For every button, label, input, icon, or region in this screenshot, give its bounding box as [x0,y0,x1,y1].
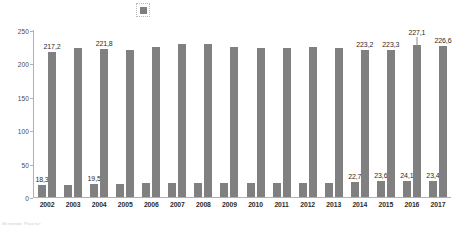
bar-value-label: 22,7 [348,173,361,180]
x-tick-label: 2005 [112,201,138,208]
y-tick-label: 100 [18,128,29,135]
x-tick-label: 2008 [190,201,216,208]
y-tick-mark [30,31,33,32]
bar-value-label: 223,3 [382,41,399,48]
x-tick-label: 2014 [347,201,373,208]
y-tick-mark [30,165,33,166]
bar[interactable] [325,183,333,197]
bar-group [269,30,295,197]
bar-value-label: 223,2 [356,41,373,48]
bar-group [60,30,86,197]
bar-group: 23,4226,6 [425,30,451,197]
y-tick-mark [30,198,33,199]
bar-group [164,30,190,197]
bar[interactable]: 24,1 [403,181,411,197]
x-tick-label: 2009 [216,201,242,208]
bar-group [216,30,242,197]
bar[interactable] [257,48,265,197]
x-tick-label: 2011 [269,201,295,208]
bar[interactable]: 18,3 [38,185,46,197]
bar[interactable] [335,48,343,197]
bar[interactable]: 221,8 [100,49,108,197]
x-tick-label: 2015 [373,201,399,208]
bar-group: 18,3217,2 [34,30,60,197]
bar[interactable] [230,47,238,197]
bar[interactable] [178,44,186,197]
x-axis-labels: 2002200320042005200620072008200920102011… [34,201,451,208]
y-tick-mark [30,131,33,132]
y-tick-label: 0 [25,195,29,202]
y-tick-label: 150 [18,94,29,101]
legend-marker-holder[interactable] [136,3,150,17]
bar[interactable] [283,48,291,197]
x-tick-label: 2004 [86,201,112,208]
bar-group [321,30,347,197]
x-tick-label: 2013 [321,201,347,208]
bar-group: 19,5221,8 [86,30,112,197]
bar-chart: 050100150200250 18,3217,219,5221,822,722… [0,0,456,233]
bar[interactable]: 223,2 [361,50,369,197]
bar-group: 24,1227,1 [399,30,425,197]
bar-group [295,30,321,197]
bar-group [138,30,164,197]
y-tick-label: 200 [18,61,29,68]
bar-value-label: 23,4 [426,172,439,179]
bar[interactable] [309,47,317,197]
bar[interactable] [152,47,160,197]
x-axis-line [33,197,451,198]
bar[interactable] [74,48,82,197]
plot-area: 050100150200250 18,3217,219,5221,822,722… [33,30,451,198]
bar[interactable]: 223,3 [387,50,395,197]
x-tick-label: 2003 [60,201,86,208]
bar[interactable]: 22,7 [351,182,359,197]
bar-group: 22,7223,2 [347,30,373,197]
bar[interactable]: 217,2 [48,52,56,197]
bar[interactable] [247,183,255,197]
bar[interactable] [299,183,307,197]
bar-value-label: 19,5 [88,175,101,182]
label-leader-line [416,37,417,45]
bar[interactable] [126,50,134,197]
bar-value-label: 217,2 [44,43,61,50]
bar-groups: 18,3217,219,5221,822,7223,223,6223,324,1… [34,30,451,197]
bar[interactable] [116,184,124,197]
y-tick-mark [30,98,33,99]
bar-value-label: 18,3 [35,176,48,183]
bar[interactable] [273,183,281,197]
x-tick-label: 2012 [295,201,321,208]
bar-group [243,30,269,197]
bar-group: 23,6223,3 [373,30,399,197]
bar[interactable]: 19,5 [90,184,98,197]
x-tick-label: 2016 [399,201,425,208]
bar-group [190,30,216,197]
bar[interactable] [194,183,202,197]
x-tick-label: 2017 [425,201,451,208]
bar[interactable]: 23,6 [377,181,385,197]
bar-value-label: 226,6 [434,37,451,44]
bar[interactable] [220,183,228,197]
bar[interactable]: 23,4 [429,181,437,197]
bar-value-label: 23,6 [374,172,387,179]
bar-value-label: 227,1 [408,29,425,36]
bar[interactable] [204,44,212,197]
y-tick-label: 50 [22,161,29,168]
source-note: Источник: Росстат [2,221,41,226]
bar[interactable] [64,185,72,197]
bar-group [112,30,138,197]
bar-value-label: 221,8 [96,40,113,47]
x-tick-label: 2007 [164,201,190,208]
y-tick-label: 250 [18,28,29,35]
bar[interactable]: 227,1 [413,45,421,197]
x-tick-label: 2010 [243,201,269,208]
y-tick-mark [30,64,33,65]
series-swatch-icon [140,7,147,14]
bar[interactable]: 226,6 [439,46,447,197]
bar[interactable] [168,183,176,197]
bar[interactable] [142,183,150,197]
x-tick-label: 2006 [138,201,164,208]
bar-value-label: 24,1 [400,172,413,179]
x-tick-label: 2002 [34,201,60,208]
